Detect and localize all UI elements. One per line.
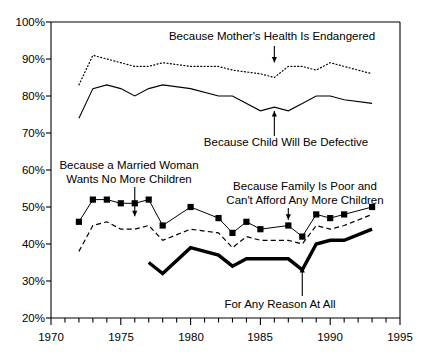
data-point-marker bbox=[243, 219, 249, 225]
data-point-marker bbox=[188, 204, 194, 210]
leader-any-reason bbox=[300, 267, 305, 296]
leader-arrowhead bbox=[132, 211, 137, 217]
y-tick-70: 70% bbox=[22, 127, 45, 139]
data-point-marker bbox=[285, 222, 291, 228]
y-tick-60: 60% bbox=[22, 164, 45, 176]
data-point-marker bbox=[90, 197, 96, 203]
data-point-marker bbox=[229, 230, 235, 236]
leader-arrowhead bbox=[272, 57, 277, 63]
data-point-marker bbox=[327, 215, 333, 221]
y-tick-50: 50% bbox=[22, 201, 45, 213]
leader-arrowhead bbox=[272, 111, 277, 117]
data-point-marker bbox=[313, 211, 319, 217]
data-point-marker bbox=[146, 197, 152, 203]
annotation-married-woman-line2: Wants No More Children bbox=[66, 173, 191, 185]
leader-arrowhead bbox=[286, 214, 291, 220]
line-chart: 100% 90% 80% 70% 60% 50% 40% 30% 20% 197… bbox=[0, 0, 424, 362]
y-tick-100: 100% bbox=[16, 16, 45, 28]
series-0 bbox=[79, 55, 372, 85]
x-tick-1980: 1980 bbox=[178, 331, 204, 343]
x-axis-ticks bbox=[51, 318, 400, 325]
leader-family-poor bbox=[286, 208, 291, 220]
leader-mother-health bbox=[272, 46, 277, 62]
series-line bbox=[149, 229, 372, 273]
annotation-married-woman-line1: Because a Married Woman bbox=[59, 159, 198, 171]
chart-container: 100% 90% 80% 70% 60% 50% 40% 30% 20% 197… bbox=[0, 0, 424, 362]
x-tick-1970: 1970 bbox=[38, 331, 64, 343]
series-line bbox=[79, 55, 372, 85]
series-1 bbox=[79, 85, 372, 118]
series-4 bbox=[149, 229, 372, 273]
data-point-marker bbox=[257, 226, 263, 232]
y-axis-ticks bbox=[46, 22, 51, 318]
data-point-marker bbox=[160, 222, 166, 228]
data-point-marker bbox=[118, 200, 124, 206]
annotation-any-reason: For Any Reason At All bbox=[224, 298, 335, 310]
series-line bbox=[79, 85, 372, 118]
x-tick-1985: 1985 bbox=[247, 331, 273, 343]
y-tick-labels: 100% 90% 80% 70% 60% 50% 40% 30% 20% bbox=[16, 16, 45, 324]
x-tick-1975: 1975 bbox=[108, 331, 134, 343]
leader-child-defective bbox=[272, 111, 277, 136]
annotation-mother-health: Because Mother's Health Is Endangered bbox=[169, 30, 375, 42]
annotation-child-defective: Because Child Will Be Defective bbox=[204, 136, 368, 148]
data-point-marker bbox=[215, 215, 221, 221]
y-tick-80: 80% bbox=[22, 90, 45, 102]
y-tick-30: 30% bbox=[22, 275, 45, 287]
y-tick-90: 90% bbox=[22, 53, 45, 65]
y-tick-40: 40% bbox=[22, 238, 45, 250]
y-tick-20: 20% bbox=[22, 312, 45, 324]
annotation-family-poor-line2: Can't Afford Any More Children bbox=[226, 194, 383, 206]
x-tick-labels: 1970 1975 1980 1985 1990 1995 bbox=[38, 331, 413, 343]
x-tick-1995: 1995 bbox=[387, 331, 413, 343]
data-point-marker bbox=[341, 211, 347, 217]
annotation-family-poor-line1: Because Family Is Poor and bbox=[233, 180, 377, 192]
data-point-marker bbox=[299, 234, 305, 240]
data-point-marker bbox=[104, 197, 110, 203]
data-point-marker bbox=[76, 219, 82, 225]
x-tick-1990: 1990 bbox=[317, 331, 343, 343]
